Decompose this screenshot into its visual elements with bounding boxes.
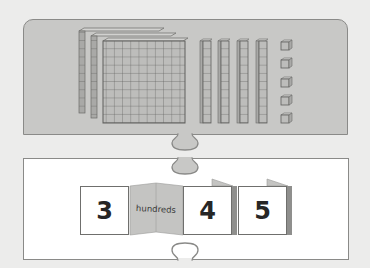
jigsaw-connector-top [172, 132, 198, 150]
jigsaw-connector-middle [172, 157, 198, 174]
tens-digit: 4 [199, 197, 216, 225]
ones-digit: 5 [254, 197, 271, 225]
hundreds-digit: 3 [96, 197, 113, 225]
tens-rod-1 [200, 39, 212, 123]
hundreds-digit-card: 3 [80, 186, 129, 235]
tens-rod-2 [218, 39, 230, 123]
jigsaw-connector-bottom [172, 243, 198, 261]
tens-rod-4 [256, 39, 268, 123]
ones-digit-card: 5 [238, 186, 287, 235]
tens-digit-card: 4 [183, 186, 232, 235]
hundreds-label: hundreds [136, 203, 176, 215]
tens-rod-3 [237, 39, 249, 123]
ones-cubes [281, 40, 292, 123]
hundreds-flat-3 [103, 38, 188, 123]
